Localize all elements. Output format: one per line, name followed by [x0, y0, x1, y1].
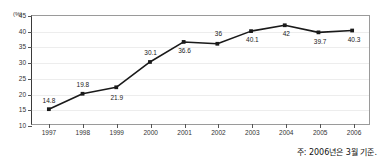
plot-area: 1015202530354045 19971998199920002001200… — [31, 15, 370, 125]
data-point-marker — [148, 60, 152, 64]
data-point-label: 30.1 — [144, 50, 157, 57]
y-tick-label: 20 — [19, 92, 26, 99]
x-tick-label: 1997 — [42, 130, 56, 137]
y-tick-label: 45 — [19, 13, 26, 20]
series-path — [49, 25, 352, 109]
data-point-label: 21.9 — [110, 95, 123, 102]
x-tick-label: 2002 — [211, 130, 225, 137]
x-tick-mark — [320, 124, 321, 128]
data-point-label: 36 — [215, 31, 222, 38]
data-point-label: 19.8 — [77, 82, 90, 89]
series-line — [32, 16, 369, 124]
y-tick-label: 30 — [19, 60, 26, 67]
data-point-marker — [350, 29, 354, 33]
x-tick-label: 2005 — [313, 130, 327, 137]
data-point-marker — [283, 23, 287, 27]
y-tick-label: 35 — [19, 44, 26, 51]
x-tick-mark — [117, 124, 118, 128]
x-tick-mark — [354, 124, 355, 128]
y-tick-label: 25 — [19, 76, 26, 83]
data-point-label: 42 — [283, 31, 290, 38]
x-tick-mark — [286, 124, 287, 128]
data-point-marker — [215, 42, 219, 46]
x-tick-label: 2001 — [177, 130, 191, 137]
y-tick-mark — [28, 126, 32, 127]
x-tick-mark — [185, 124, 186, 128]
x-tick-label: 1999 — [110, 130, 124, 137]
data-point-label: 40.1 — [246, 37, 259, 44]
data-point-marker — [114, 85, 118, 89]
data-point-marker — [249, 29, 253, 33]
data-point-label: 40.3 — [348, 37, 361, 44]
x-tick-mark — [151, 124, 152, 128]
x-tick-mark — [218, 124, 219, 128]
y-tick-label: 15 — [19, 107, 26, 114]
x-tick-label: 2003 — [245, 130, 259, 137]
y-tick-label: 10 — [19, 123, 26, 130]
chart-footnote: 주: 2006년은 3월 기준. — [297, 148, 377, 158]
data-point-marker — [47, 107, 51, 111]
x-tick-label: 2006 — [347, 130, 361, 137]
y-tick-label: 40 — [19, 29, 26, 36]
line-chart: (%) 1015202530354045 1997199819992000200… — [0, 0, 383, 161]
data-point-marker — [317, 30, 321, 34]
data-point-label: 36.6 — [178, 48, 191, 55]
x-tick-label: 1998 — [76, 130, 90, 137]
x-tick-label: 2004 — [279, 130, 293, 137]
data-point-marker — [81, 92, 85, 96]
x-tick-mark — [49, 124, 50, 128]
x-tick-label: 2000 — [143, 130, 157, 137]
data-point-label: 39.7 — [314, 39, 327, 46]
x-tick-mark — [83, 124, 84, 128]
data-point-marker — [182, 40, 186, 44]
x-tick-mark — [252, 124, 253, 128]
data-point-label: 14.8 — [43, 98, 56, 105]
